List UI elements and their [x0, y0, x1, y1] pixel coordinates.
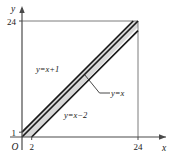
x-tick-label-24: 24: [134, 142, 144, 152]
x-axis-arrowhead: [159, 134, 166, 139]
y-tick-label-24: 24: [7, 17, 17, 27]
y-axis-label: y: [10, 4, 16, 14]
x-axis-label: x: [161, 143, 167, 153]
y-tick-label-1: 1: [12, 128, 17, 138]
graph-svg: y x O 24 1 2 24 y=x+1 y=x y=x−2: [0, 0, 178, 163]
x-tick-label-2: 2: [29, 142, 34, 152]
curve-label-y-equals-x-plus-1: y=x+1: [35, 64, 59, 74]
y-axis-arrowhead: [19, 6, 24, 13]
line-y-equals-x-minus-2: [32, 31, 138, 137]
curve-label-y-equals-x-minus-2: y=x−2: [63, 110, 88, 120]
origin-label: O: [12, 142, 19, 152]
figure-container: y x O 24 1 2 24 y=x+1 y=x y=x−2: [0, 0, 178, 163]
curve-label-y-equals-x: y=x: [110, 88, 125, 98]
